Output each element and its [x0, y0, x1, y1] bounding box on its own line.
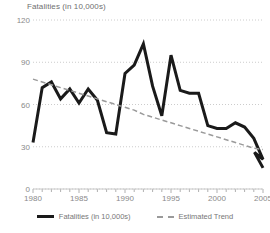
plot-area: 0306090120 198019851990199520002005	[33, 20, 263, 189]
y-tick-label: 90	[21, 58, 30, 67]
x-tick-label: 2000	[208, 194, 226, 203]
horizontal-gridlines	[33, 20, 263, 189]
axis-tick-marks	[33, 189, 263, 193]
legend-swatch-dashed-icon	[157, 216, 174, 218]
fatalities-line-chart: Fatalities (in 10,000s) 0306090120 19801…	[0, 0, 270, 233]
legend-label-fatalities: Fatalities (in 10,000s)	[59, 212, 131, 221]
x-tick-label: 2005	[254, 194, 270, 203]
legend-swatch-solid-icon	[37, 215, 54, 218]
series-line-estimated-trend	[33, 79, 263, 149]
y-tick-label: 30	[21, 142, 30, 151]
legend-entry-estimated-trend: Estimated Trend	[157, 212, 234, 221]
x-tick-label: 1980	[24, 194, 42, 203]
x-tick-label: 1985	[70, 194, 88, 203]
x-tick-label: 1990	[116, 194, 134, 203]
y-tick-label: 0	[26, 185, 30, 194]
y-tick-label: 120	[17, 16, 30, 25]
chart-title: Fatalities (in 10,000s)	[27, 2, 106, 11]
y-tick-label: 60	[21, 100, 30, 109]
chart-legend: Fatalities (in 10,000s) Estimated Trend	[0, 212, 270, 221]
legend-label-estimated-trend: Estimated Trend	[179, 212, 234, 221]
x-tick-label: 1995	[162, 194, 180, 203]
legend-entry-fatalities: Fatalities (in 10,000s)	[37, 212, 131, 221]
chart-canvas	[33, 20, 263, 189]
